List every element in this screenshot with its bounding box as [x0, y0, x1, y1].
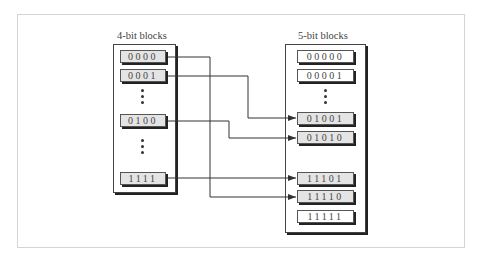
mapping-wires [0, 0, 482, 262]
wire-0100-to-01010 [168, 121, 296, 138]
wire-0001-to-01001 [168, 76, 296, 118]
wire-0000-to-11110 [168, 57, 296, 197]
